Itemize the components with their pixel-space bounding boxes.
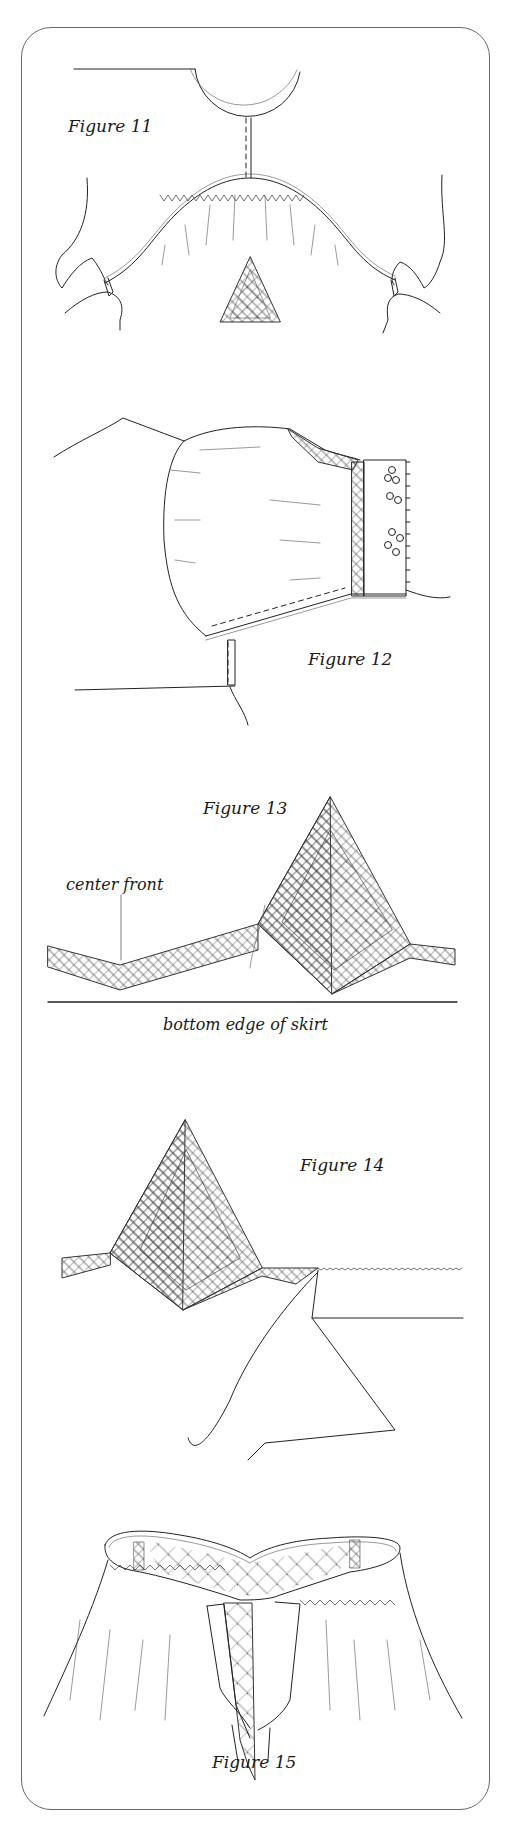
figure-15-label: Figure 15 (212, 1754, 296, 1771)
bottom-edge-annotation: bottom edge of skirt (163, 1017, 328, 1033)
figure-11-drawing (56, 69, 445, 333)
figure-15-drawing (44, 1531, 462, 1780)
figure-13-label: Figure 13 (203, 800, 287, 817)
illustrations (0, 0, 515, 1823)
center-front-annotation: center front (66, 877, 163, 893)
figure-11-label: Figure 11 (68, 118, 152, 135)
figure-12-drawing (54, 418, 450, 725)
figure-14-drawing (62, 1120, 463, 1460)
figure-14-label: Figure 14 (300, 1157, 384, 1174)
figure-13-drawing (48, 797, 457, 1002)
figure-12-label: Figure 12 (308, 651, 392, 668)
